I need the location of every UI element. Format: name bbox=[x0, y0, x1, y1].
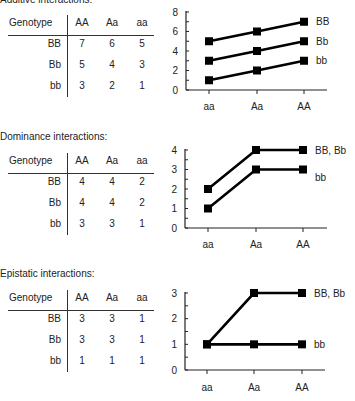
section-title-additive: Additive interactions: bbox=[0, 0, 92, 5]
table-corner-label: Genotype bbox=[9, 292, 52, 303]
series-label: bb bbox=[314, 339, 326, 350]
column-header: Aa bbox=[104, 17, 120, 28]
row-label: bb bbox=[30, 218, 61, 229]
y-tick-label: 1 bbox=[171, 339, 177, 350]
table-cell: 6 bbox=[104, 38, 120, 49]
y-tick-label: 0 bbox=[172, 85, 178, 96]
table-cell: 5 bbox=[74, 59, 90, 70]
row-label: BB bbox=[30, 313, 61, 324]
table-cell: 3 bbox=[74, 80, 90, 91]
table-cell: 4 bbox=[104, 197, 120, 208]
y-tick-label: 0 bbox=[171, 365, 177, 376]
table-row-divider bbox=[67, 153, 68, 235]
y-tick-label: 4 bbox=[172, 46, 178, 57]
series-line bbox=[208, 170, 303, 209]
table-cell: 3 bbox=[134, 59, 150, 70]
table-cell: 1 bbox=[134, 80, 150, 91]
table-cell: 1 bbox=[134, 334, 150, 345]
line-chart-additive: 02468aaAaAABBBbbb bbox=[170, 0, 355, 115]
y-tick-label: 2 bbox=[172, 65, 178, 76]
square-marker bbox=[252, 166, 260, 174]
square-marker bbox=[205, 57, 213, 65]
x-tick-label: aa bbox=[201, 382, 213, 393]
row-label: BB bbox=[30, 38, 61, 49]
x-tick-label: Aa bbox=[250, 239, 263, 250]
square-marker bbox=[204, 205, 212, 213]
square-marker bbox=[204, 185, 212, 193]
table-header-divider bbox=[8, 35, 154, 36]
series-line bbox=[207, 293, 302, 344]
column-header: AA bbox=[74, 292, 90, 303]
square-marker bbox=[250, 340, 258, 348]
y-tick-label: 2 bbox=[171, 184, 177, 195]
table-cell: 3 bbox=[74, 334, 90, 345]
table-cell: 2 bbox=[134, 197, 150, 208]
column-header: AA bbox=[74, 155, 90, 166]
series-label: BB bbox=[316, 16, 330, 27]
table-cell: 4 bbox=[104, 176, 120, 187]
table-cell: 1 bbox=[134, 218, 150, 229]
square-marker bbox=[299, 146, 307, 154]
line-chart-dominance: 01234aaAaAABB, Bbbb bbox=[170, 125, 355, 255]
genotype-table-additive: GenotypeAAAaaaBB765Bb543bb321 bbox=[0, 10, 160, 100]
table-cell: 3 bbox=[104, 334, 120, 345]
table-cell: 2 bbox=[134, 176, 150, 187]
square-marker bbox=[252, 146, 260, 154]
y-tick-label: 6 bbox=[172, 26, 178, 37]
series-label: Bb bbox=[316, 36, 329, 47]
table-cell: 3 bbox=[104, 313, 120, 324]
square-marker bbox=[253, 67, 261, 75]
series-label: bb bbox=[316, 55, 328, 66]
genotype-table-dominance: GenotypeAAAaaaBB442Bb442bb331 bbox=[0, 148, 160, 238]
table-cell: 7 bbox=[74, 38, 90, 49]
square-marker bbox=[250, 289, 258, 297]
y-tick-label: 2 bbox=[171, 313, 177, 324]
y-tick-label: 3 bbox=[171, 288, 177, 299]
x-tick-label: Aa bbox=[248, 382, 261, 393]
column-header: Aa bbox=[104, 155, 120, 166]
table-cell: 1 bbox=[134, 355, 150, 366]
y-tick-label: 1 bbox=[171, 203, 177, 214]
table-header-divider bbox=[8, 173, 154, 174]
x-tick-label: AA bbox=[295, 382, 309, 393]
series-label: BB, Bb bbox=[315, 145, 347, 156]
square-marker bbox=[203, 340, 211, 348]
square-marker bbox=[299, 166, 307, 174]
table-row-divider bbox=[67, 15, 68, 97]
table-cell: 3 bbox=[104, 218, 120, 229]
column-header: aa bbox=[134, 155, 150, 166]
table-cell: 4 bbox=[74, 197, 90, 208]
table-corner-label: Genotype bbox=[9, 17, 52, 28]
table-cell: 4 bbox=[104, 59, 120, 70]
y-tick-label: 4 bbox=[171, 145, 177, 156]
square-marker bbox=[205, 76, 213, 84]
y-tick-label: 0 bbox=[171, 223, 177, 234]
table-cell: 4 bbox=[74, 176, 90, 187]
table-cell: 2 bbox=[104, 80, 120, 91]
series-label: BB, Bb bbox=[314, 288, 346, 299]
table-cell: 1 bbox=[134, 313, 150, 324]
x-tick-label: aa bbox=[203, 101, 215, 112]
y-tick-label: 3 bbox=[171, 164, 177, 175]
row-label: Bb bbox=[30, 197, 61, 208]
square-marker bbox=[300, 18, 308, 26]
table-cell: 3 bbox=[74, 218, 90, 229]
square-marker bbox=[300, 37, 308, 45]
x-tick-label: AA bbox=[296, 239, 310, 250]
table-header-divider bbox=[8, 310, 154, 311]
square-marker bbox=[300, 57, 308, 65]
row-label: bb bbox=[30, 355, 61, 366]
y-tick-label: 8 bbox=[172, 7, 178, 18]
square-marker bbox=[205, 37, 213, 45]
row-label: bb bbox=[30, 80, 61, 91]
table-cell: 5 bbox=[134, 38, 150, 49]
column-header: aa bbox=[134, 17, 150, 28]
section-title-epistatic: Epistatic interactions: bbox=[0, 268, 95, 279]
row-label: Bb bbox=[30, 334, 61, 345]
section-title-dominance: Dominance interactions: bbox=[0, 131, 107, 142]
table-cell: 1 bbox=[104, 355, 120, 366]
square-marker bbox=[298, 289, 306, 297]
column-header: Aa bbox=[104, 292, 120, 303]
table-cell: 3 bbox=[74, 313, 90, 324]
square-marker bbox=[298, 340, 306, 348]
